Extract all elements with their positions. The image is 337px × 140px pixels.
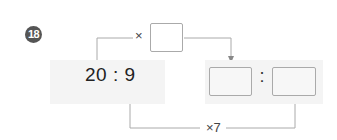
multiply-symbol: × (135, 28, 143, 43)
problem-number-badge: 18 (25, 26, 42, 43)
times-seven-label: ×7 (203, 120, 224, 135)
ratio-first-answer-box[interactable] (209, 67, 252, 96)
ratio-second-answer-box[interactable] (272, 67, 316, 96)
ratio-colon: : (257, 66, 267, 87)
given-ratio: 20 : 9 (85, 64, 175, 86)
multiplier-answer-box[interactable] (150, 23, 183, 52)
